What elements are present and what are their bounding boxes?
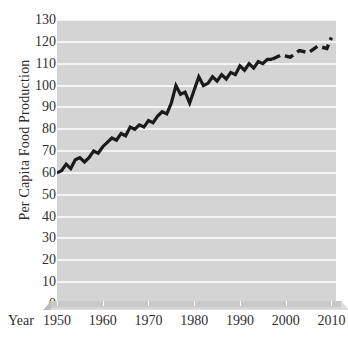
x-tick-mark xyxy=(148,301,149,306)
plot-area xyxy=(57,20,336,304)
x-tick-mark xyxy=(103,301,104,306)
solid-data-line xyxy=(57,59,272,173)
x-tick-label: 1990 xyxy=(226,312,254,330)
x-tick-mark xyxy=(286,301,287,306)
y-tick-label: 10 xyxy=(28,275,56,289)
data-series-layer xyxy=(57,20,336,304)
y-tick-label: 50 xyxy=(28,188,56,202)
x-tick-mark xyxy=(194,301,195,306)
x-tick-label: 1980 xyxy=(180,312,208,330)
chart-container: Per Capita Food Production 1301201101009… xyxy=(0,0,348,340)
x-tick-mark xyxy=(331,301,332,306)
y-tick-label: 20 xyxy=(28,253,56,267)
y-tick-label: 90 xyxy=(28,100,56,114)
x-tick-label: 1960 xyxy=(89,312,117,330)
x-tick-mark xyxy=(57,301,58,306)
x-axis-tick-labels: 1950196019701980199020002010 xyxy=(0,312,348,334)
x-tick-label: 2000 xyxy=(272,312,300,330)
y-tick-label: 30 xyxy=(28,231,56,245)
x-tick-label: 2010 xyxy=(317,312,345,330)
y-tick-label: 60 xyxy=(28,166,56,180)
y-tick-label: 80 xyxy=(28,122,56,136)
x-axis-bar xyxy=(50,301,342,310)
x-tick-label: 1970 xyxy=(134,312,162,330)
y-tick-label: 110 xyxy=(28,57,56,71)
y-axis-tick-labels: 1301201101009080706050403020100 xyxy=(28,12,56,312)
dashed-projection-line xyxy=(272,37,331,59)
y-tick-label: 120 xyxy=(28,35,56,49)
x-tick-label: 1950 xyxy=(43,312,71,330)
y-tick-label: 100 xyxy=(28,79,56,93)
y-tick-label: 130 xyxy=(28,13,56,27)
x-tick-mark xyxy=(240,301,241,306)
y-tick-label: 40 xyxy=(28,210,56,224)
y-tick-label: 70 xyxy=(28,144,56,158)
